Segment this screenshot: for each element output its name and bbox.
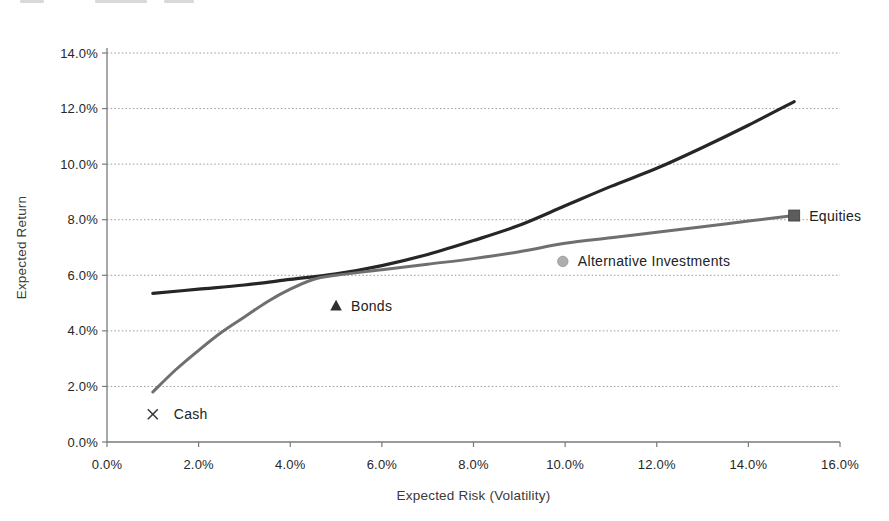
marker-equities: Equities	[789, 208, 862, 224]
y-axis-title: Expected Return	[14, 196, 29, 300]
scan-artifact	[95, 0, 147, 3]
marker-alternative-investments: Alternative Investments	[558, 253, 731, 269]
efficient-frontier-chart: 0.0%2.0%4.0%6.0%8.0%10.0%12.0%14.0%0.0%2…	[0, 0, 889, 521]
marker-label-bonds: Bonds	[351, 298, 392, 314]
axes	[102, 48, 840, 447]
y-tick-label: 12.0%	[60, 101, 98, 116]
y-tick-label: 10.0%	[60, 157, 98, 172]
y-tick-label: 2.0%	[68, 379, 99, 394]
scan-artifact	[20, 0, 44, 3]
marker-label-cash: Cash	[174, 406, 208, 422]
square-marker-icon	[789, 210, 800, 221]
y-tick-label: 4.0%	[68, 323, 99, 338]
x-tick-label: 4.0%	[275, 457, 306, 472]
x-tick-label: 10.0%	[546, 457, 584, 472]
x-tick-label: 16.0%	[821, 457, 859, 472]
x-axis-title: Expected Risk (Volatility)	[397, 488, 551, 503]
x-tick-label: 2.0%	[183, 457, 214, 472]
marker-bonds: Bonds	[330, 298, 392, 314]
circle-marker-icon	[558, 256, 568, 266]
y-tick-label: 8.0%	[68, 212, 99, 227]
x-tick-label: 8.0%	[458, 457, 489, 472]
marker-cash: Cash	[148, 406, 208, 422]
asset-markers: CashBondsAlternative InvestmentsEquities	[148, 208, 862, 423]
x-tick-label: 0.0%	[92, 457, 123, 472]
triangle-marker-icon	[330, 300, 342, 311]
y-tick-label: 6.0%	[68, 268, 99, 283]
x-tick-label: 6.0%	[367, 457, 398, 472]
x-tick-label: 14.0%	[729, 457, 767, 472]
marker-label-alternative-investments: Alternative Investments	[578, 253, 730, 269]
scan-artifact	[164, 0, 194, 3]
series-lines	[153, 102, 794, 392]
y-tick-label: 0.0%	[68, 435, 99, 450]
y-tick-label: 14.0%	[60, 46, 98, 61]
marker-label-equities: Equities	[809, 208, 861, 224]
chart-canvas: 0.0%2.0%4.0%6.0%8.0%10.0%12.0%14.0%0.0%2…	[0, 0, 889, 521]
x-tick-label: 12.0%	[638, 457, 676, 472]
